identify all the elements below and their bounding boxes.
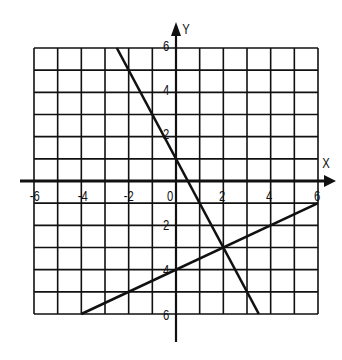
x-axis-arrow-icon [324, 175, 336, 187]
x-tick-label: 0 [167, 188, 173, 203]
y-tick-label: 2 [163, 217, 169, 232]
x-tick-label: 6 [314, 188, 320, 203]
y-tick-label: 2 [163, 126, 169, 141]
coordinate-plane [0, 0, 342, 360]
y-axis-label: Y [182, 21, 190, 36]
y-axis-arrow-icon [171, 22, 181, 36]
x-tick-label: -6 [30, 188, 40, 203]
x-tick-label: -2 [124, 188, 134, 203]
x-tick-label: -4 [78, 188, 88, 203]
y-tick-label: 6 [163, 307, 169, 322]
x-tick-label: 4 [266, 188, 272, 203]
y-tick-label: 4 [163, 82, 169, 97]
y-tick-label: 6 [163, 38, 169, 53]
x-axis-label: X [322, 155, 330, 170]
x-tick-label: 2 [219, 188, 225, 203]
y-tick-label: 4 [163, 262, 169, 277]
